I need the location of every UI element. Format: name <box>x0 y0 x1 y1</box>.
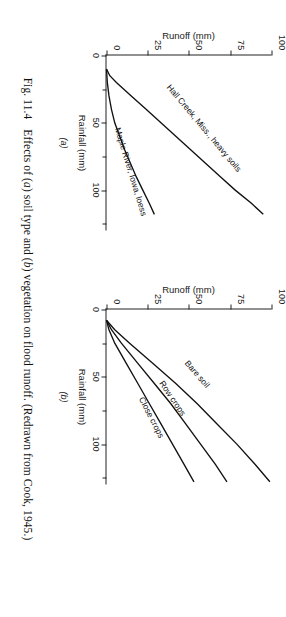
panel-b-ytick-label-100: 100 <box>276 288 285 304</box>
panel-a-ytick-mark-75 <box>230 50 231 55</box>
figure-caption-part-1: Effects of ( <box>21 129 33 182</box>
panel-b-vegetation: 0 25 50 75 100 0 50 100 <box>39 268 279 500</box>
panel-b-plot-area: 0 25 50 75 100 0 50 100 <box>105 308 271 484</box>
panel-a-series-maple-river <box>106 68 154 213</box>
figure-number: Fig. 11.4 <box>21 77 33 119</box>
panel-a-curves <box>106 55 271 230</box>
panel-b-ytick-mark-25 <box>147 304 148 309</box>
panel-a-ytick-label-75: 75 <box>235 40 245 50</box>
panel-a-series-hall-creek <box>106 68 263 213</box>
figure-caption: Fig. 11.4Effects of (a) soil type and (b… <box>21 0 33 617</box>
panel-a-xtick-mark-0 <box>101 55 106 56</box>
figure-panels: 0 25 50 75 100 0 50 100 <box>0 0 285 617</box>
panel-a-xtick-label-100: 100 <box>90 182 100 197</box>
panel-b-ytick-mark-0 <box>106 304 107 309</box>
panel-a-ytick-label-100: 100 <box>276 34 285 50</box>
panel-a-soil-type: 0 25 50 75 100 0 50 100 <box>39 14 279 246</box>
figure-caption-part-2: ) soil type and ( <box>21 187 33 261</box>
panel-b-ylabel: Runoff (mm) <box>162 284 215 295</box>
panel-a-ytick-mark-25 <box>147 50 148 55</box>
panel-b-curves <box>106 309 271 484</box>
figure-caption-part-3: ) vegetation on flood runoff. (Redrawn f… <box>21 267 33 540</box>
panel-b-subcaption: (b) <box>58 391 68 402</box>
panel-b-xtick-mark-0 <box>101 309 106 310</box>
panel-a-xtick-mark-100 <box>101 190 106 191</box>
panel-b-xtick-mark-125 <box>103 477 107 478</box>
panel-b-xtick-label-100: 100 <box>90 436 100 451</box>
figure-11-4: 0 25 50 75 100 0 50 100 <box>0 0 285 617</box>
panel-a-xtick-mark-50 <box>101 122 106 123</box>
figure-caption-ref-b: b <box>21 261 33 267</box>
panel-a-ylabel: Runoff (mm) <box>162 30 215 41</box>
panel-a-ytick-mark-100 <box>271 50 272 55</box>
panel-b-ytick-mark-50 <box>189 304 190 309</box>
panel-a-xtick-mark-75 <box>103 156 107 157</box>
panel-a-ytick-mark-0 <box>106 50 107 55</box>
rotated-page-wrapper: 0 25 50 75 100 0 50 100 <box>0 0 285 617</box>
panel-a-ytick-label-25: 25 <box>152 40 162 50</box>
panel-b-ytick-label-25: 25 <box>152 294 162 304</box>
panel-b-xtick-mark-100 <box>101 444 106 445</box>
panel-b-ytick-label-0: 0 <box>111 299 121 304</box>
panel-b-xtick-label-50: 50 <box>90 371 100 381</box>
panel-a-ytick-label-0: 0 <box>111 45 121 50</box>
panel-b-xtick-mark-25 <box>103 343 107 344</box>
panel-b-xtick-mark-50 <box>101 376 106 377</box>
panel-a-ytick-mark-50 <box>189 50 190 55</box>
panel-a-xlabel: Rainfall (mm) <box>76 114 87 170</box>
panel-a-xtick-label-50: 50 <box>90 117 100 127</box>
panel-a-xtick-mark-25 <box>103 89 107 90</box>
panel-a-plot-area: 0 25 50 75 100 0 50 100 <box>105 54 271 230</box>
panel-b-ytick-mark-100 <box>271 304 272 309</box>
panel-b-series-bare-soil <box>106 320 269 482</box>
panel-b-ytick-label-75: 75 <box>235 294 245 304</box>
panel-b-ytick-label-50: 50 <box>194 294 204 304</box>
panel-b-xtick-mark-75 <box>103 410 107 411</box>
panel-a-xtick-mark-125 <box>103 223 107 224</box>
panel-b-ytick-mark-75 <box>230 304 231 309</box>
panel-b-xlabel: Rainfall (mm) <box>76 368 87 424</box>
panel-b-xtick-label-0: 0 <box>90 306 100 311</box>
panel-b-series-row-crops <box>106 320 226 482</box>
panel-a-xtick-label-0: 0 <box>90 52 100 57</box>
panel-a-subcaption: (a) <box>58 137 68 148</box>
panel-a-ytick-label-50: 50 <box>194 40 204 50</box>
